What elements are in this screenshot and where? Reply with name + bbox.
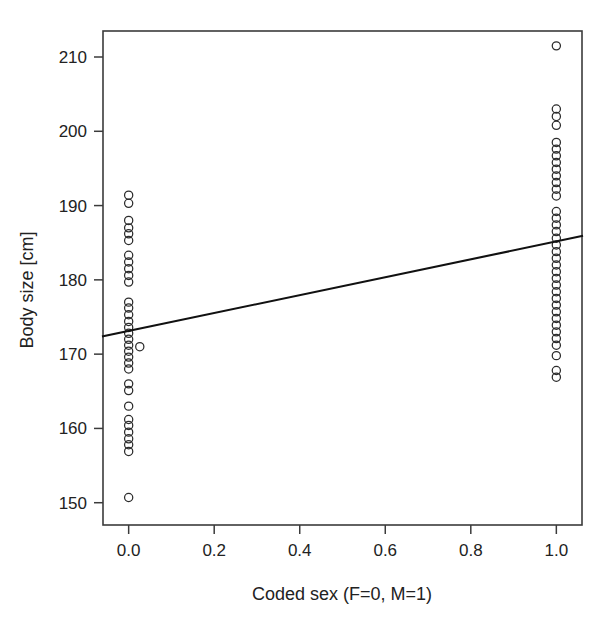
y-tick-label: 210 (59, 48, 87, 67)
data-point (552, 42, 560, 50)
data-point (136, 343, 144, 351)
data-point (125, 191, 133, 199)
x-tick-label: 1.0 (545, 541, 569, 560)
data-point (552, 352, 560, 360)
plot-frame (103, 31, 582, 525)
y-tick-label: 160 (59, 419, 87, 438)
scatter-plot-canvas: 150160170180190200210 0.00.20.40.60.81.0… (0, 0, 612, 631)
data-point (552, 121, 560, 129)
y-tick-label: 190 (59, 197, 87, 216)
x-tick-label: 0.2 (202, 541, 226, 560)
y-tick-label: 200 (59, 122, 87, 141)
x-tick-label: 0.8 (459, 541, 483, 560)
y-tick-label: 150 (59, 494, 87, 513)
x-tick-label: 0.0 (117, 541, 141, 560)
x-axis-title: Coded sex (F=0, M=1) (252, 584, 432, 604)
regression-line-layer (103, 236, 582, 336)
y-axis-ticks (94, 57, 103, 503)
x-axis-ticks (129, 525, 557, 534)
y-axis-tick-labels: 150160170180190200210 (59, 48, 87, 513)
data-point (125, 493, 133, 501)
y-tick-label: 170 (59, 345, 87, 364)
y-tick-label: 180 (59, 271, 87, 290)
regression-line (103, 236, 582, 336)
y-axis-title: Body size [cm] (17, 231, 37, 348)
x-tick-label: 0.6 (373, 541, 397, 560)
x-axis-tick-labels: 0.00.20.40.60.81.0 (117, 541, 568, 560)
data-point (125, 402, 133, 410)
data-point (125, 365, 133, 373)
scatter-points-layer (125, 42, 561, 502)
chart-figure: 150160170180190200210 0.00.20.40.60.81.0… (0, 0, 612, 631)
data-point (125, 199, 133, 207)
x-tick-label: 0.4 (288, 541, 312, 560)
